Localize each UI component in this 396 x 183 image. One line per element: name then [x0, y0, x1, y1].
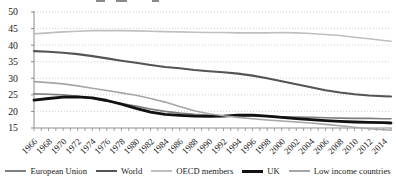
legend-label: World — [121, 167, 142, 176]
cropped-title-remnant — [152, 0, 159, 2]
legend-swatch-uk — [242, 170, 263, 173]
y-axis-label: 50 — [8, 6, 18, 17]
series-line-world — [34, 51, 391, 96]
y-axis-label: 35 — [8, 56, 18, 67]
y-axis-label: 45 — [8, 23, 18, 34]
y-axis-label: 30 — [8, 73, 18, 84]
y-axis-label: 25 — [8, 89, 18, 100]
series-line-uk — [34, 97, 391, 123]
chart-legend: European UnionWorldOECD membersUKLow inc… — [0, 160, 396, 182]
legend-item-european-union: European Union — [5, 167, 87, 176]
legend-swatch-european-union — [5, 170, 26, 172]
legend-label: Low income countries — [314, 167, 391, 176]
legend-swatch-world — [96, 170, 117, 172]
y-axis-label: 40 — [8, 40, 18, 51]
legend-label: OECD members — [176, 167, 233, 176]
legend-item-oecd-members: OECD members — [151, 167, 233, 176]
legend-label: UK — [267, 167, 279, 176]
legend-swatch-oecd-members — [151, 170, 172, 172]
x-axis-label: 2014 — [369, 136, 389, 156]
legend-item-low-income-countries: Low income countries — [289, 167, 391, 176]
legend-swatch-low-income-countries — [289, 170, 310, 172]
cropped-title-remnant — [116, 0, 127, 2]
legend-item-world: World — [96, 167, 142, 176]
cropped-title-remnant — [96, 0, 105, 2]
legend-label: European Union — [30, 167, 87, 176]
legend-item-uk: UK — [242, 167, 279, 176]
series-line-oecd-members — [34, 31, 391, 42]
series-line-low-income-countries — [34, 82, 391, 131]
y-axis-label: 15 — [8, 122, 18, 133]
y-axis-label: 20 — [8, 106, 18, 117]
line-chart: 1520253035404550196619681970197219741976… — [0, 0, 396, 158]
